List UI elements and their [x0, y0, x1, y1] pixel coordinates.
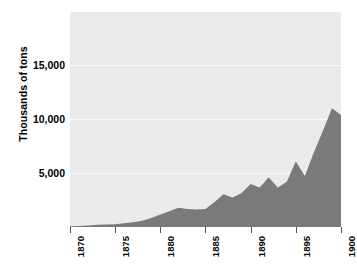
- x-tick-label-1900: 1900: [346, 236, 357, 257]
- x-tick-label-1880: 1880: [165, 236, 176, 257]
- x-tickmark-1890: [251, 227, 252, 233]
- x-tickmark-1885: [205, 227, 206, 233]
- plot-area: [70, 12, 341, 227]
- x-tickmark-1900: [341, 227, 342, 233]
- x-tickmark-1875: [115, 227, 116, 233]
- x-tick-label-1885: 1885: [210, 236, 221, 257]
- y-tick-label-5000: 5,000: [5, 167, 65, 179]
- x-tick-label-1890: 1890: [256, 236, 267, 257]
- y-tick-label-15000: 15,000: [5, 59, 65, 71]
- y-tick-label-10000: 10,000: [5, 113, 65, 125]
- area-series: [70, 12, 341, 227]
- x-tickmark-1870: [70, 227, 71, 233]
- x-tick-label-1895: 1895: [301, 236, 312, 257]
- x-tick-label-1875: 1875: [120, 236, 131, 257]
- y-axis-title: Thousands of tons: [17, 34, 29, 154]
- x-tickmark-1880: [160, 227, 161, 233]
- x-tick-label-1870: 1870: [75, 236, 86, 257]
- x-tickmark-1895: [296, 227, 297, 233]
